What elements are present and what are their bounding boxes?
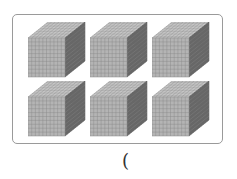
answer-parenthesis: ( <box>122 152 129 170</box>
cube-block-2 <box>90 22 148 78</box>
cube-block-5 <box>90 81 148 137</box>
cube-block-4 <box>28 81 86 137</box>
cube-block-6 <box>152 81 210 137</box>
cube-block-3 <box>152 22 210 78</box>
cube-block-1 <box>28 22 86 78</box>
